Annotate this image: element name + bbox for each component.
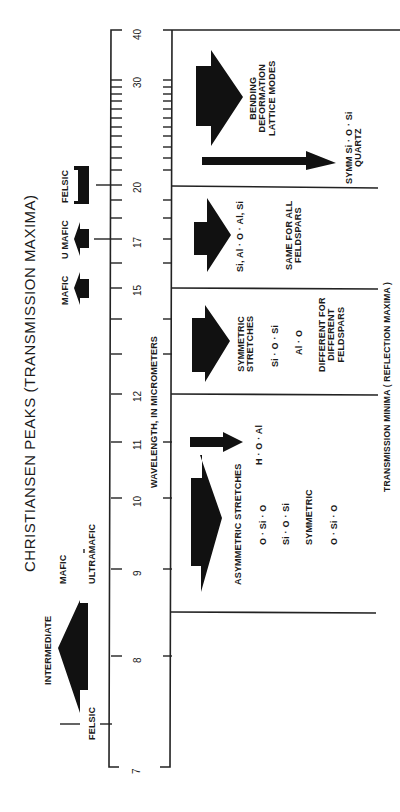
bending-modes-label: BENDING DEFORMATION LATTICE MODES	[249, 61, 277, 136]
tick-20: 20	[133, 182, 143, 193]
symmetric-si-o-si-label: Si · O · Si	[271, 325, 280, 367]
quartz-label: SYMM Si · O · Si QUARTZ	[345, 111, 364, 184]
tick-11: 11	[133, 440, 143, 450]
different-feldspars-note: DIFFERENT FOR DIFFERENT FELDSPARS	[318, 297, 346, 372]
tick-40: 40	[133, 29, 143, 40]
bending-heading-3: LATTICE MODES	[268, 61, 277, 136]
symmetric-heading-2: STRETCHES	[246, 316, 255, 372]
felsic-low-label: FELSIC	[88, 707, 97, 740]
tick-10: 10	[133, 496, 143, 507]
right-scale-line	[160, 30, 400, 767]
ultramafic-label: ULTRAMAFIC	[88, 524, 97, 584]
intermediate-arrow-icon	[58, 600, 88, 713]
asymmetric-arrow-icon	[191, 455, 222, 592]
mafic-low-label: MAFIC	[59, 555, 68, 585]
u-mafic-arrow-icon	[74, 222, 89, 256]
quartz-arrow-icon	[202, 151, 336, 170]
transmission-minima-label: TRANSMISSION MINIMA ( REFLECTION MAXIMA …	[383, 282, 392, 492]
separator-8-6	[170, 612, 376, 613]
si-al-o-al-si-label: Si, Al · O · Al, Si	[236, 201, 245, 272]
h-o-al-arrow-icon	[190, 432, 243, 452]
si-o-si-label: Si · O · Si	[282, 503, 291, 545]
al-o-label: Al · O	[295, 330, 304, 355]
separator-12	[171, 394, 378, 395]
tick-8: 8	[133, 657, 143, 663]
bending-arrow-icon	[196, 50, 243, 146]
tick-30: 30	[133, 77, 143, 88]
o-si-o-label-2: O · Si · O	[330, 504, 339, 545]
u-mafic-label: U MAFIC	[61, 220, 70, 259]
tick-12: 12	[133, 391, 143, 402]
symmetric-label: SYMMETRIC	[305, 489, 314, 545]
symmetric-stretches-label: SYMMETRIC STRETCHES	[237, 316, 256, 372]
same-feldspars-note: SAME FOR ALL FELDSPARS	[285, 200, 304, 270]
christiansen-diagram: CHRISTIANSEN PEAKS (TRANSMISSION MAXIMA)…	[0, 0, 400, 812]
asymmetric-stretches-label: ASYMMETRIC STRETCHES	[234, 463, 243, 585]
separator-15	[171, 288, 378, 289]
mafic-high-arrow-icon	[74, 272, 89, 305]
intermediate-label: INTERMEDIATE	[44, 616, 53, 685]
tick-7: 7	[132, 768, 142, 774]
tick-17: 17	[133, 237, 143, 248]
same-arrow-icon	[194, 198, 231, 272]
axis-label: WAVELENGTH, IN MICROMETERS	[150, 336, 159, 488]
tick-15: 15	[133, 285, 143, 296]
felsic-high-label: FELSIC	[61, 170, 70, 203]
symmetric-arrow-icon	[192, 305, 230, 382]
left-ticks	[94, 80, 122, 724]
h-o-al-label: H · O · Al	[255, 425, 264, 465]
tick-9: 9	[133, 570, 143, 576]
mafic-high-label: MAFIC	[61, 276, 70, 306]
diagram-graphics	[0, 0, 400, 812]
diagram-title: CHRISTIANSEN PEAKS (TRANSMISSION MAXIMA)	[22, 194, 37, 572]
quartz-text: QUARTZ	[354, 111, 363, 184]
o-si-o-label-1: O · Si · O	[259, 504, 268, 545]
same-note-2: FELDSPARS	[294, 200, 303, 270]
different-note-3: FELDSPARS	[337, 297, 346, 372]
separator-20	[171, 186, 378, 188]
